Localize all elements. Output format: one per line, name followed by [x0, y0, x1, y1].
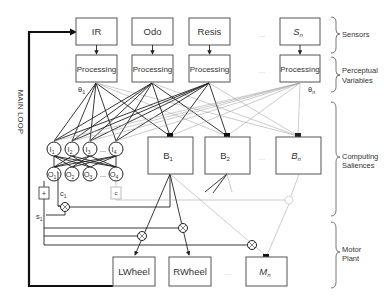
perceptual-connections: [54, 83, 301, 141]
output-node-3: O3: [83, 167, 97, 181]
svg-text:Processing: Processing: [280, 65, 320, 74]
svg-text:LWheel: LWheel: [118, 266, 150, 277]
input-node-3: I3: [83, 142, 97, 156]
svg-text:Plant: Plant: [342, 254, 360, 263]
svg-text:Resis: Resis: [198, 26, 222, 37]
theta-n-label: θn: [308, 85, 315, 95]
processing-odo: Processing: [132, 55, 173, 82]
svg-text:Processing: Processing: [190, 65, 230, 74]
svg-text:+: +: [42, 189, 47, 198]
b1-motor-lines: [135, 174, 265, 255]
brace-computing: Computing Saliences: [331, 102, 378, 216]
svg-text:Perceptual: Perceptual: [342, 66, 378, 75]
input-node-4: I4: [109, 142, 123, 156]
c1-label: c1: [60, 189, 67, 199]
processing-sn: Processing: [280, 55, 320, 82]
sensor-ellipsis: ...: [259, 30, 266, 39]
brace-perceptual: Perceptual Variables: [331, 57, 378, 92]
svg-text:Processing: Processing: [77, 65, 117, 74]
sensor-sn: Sn: [280, 18, 320, 45]
sensor-odo: Odo: [132, 18, 173, 45]
main-loop-label: MAIN LOOP: [16, 90, 25, 134]
svg-text:Variables: Variables: [342, 76, 373, 85]
behavior-bn: Bn: [276, 137, 321, 174]
svg-text:Motor: Motor: [342, 245, 362, 254]
brace-motor: Motor Plant: [331, 222, 362, 288]
s1-label: s1: [36, 212, 43, 222]
output-node-4: O4: [109, 167, 123, 181]
motor-mn: Mn: [246, 257, 287, 286]
processing-ellipsis: ...: [259, 66, 266, 75]
b2-output-lines: [205, 174, 232, 193]
svg-text:Saliences: Saliences: [342, 161, 375, 170]
output-ellipsis: ...: [100, 170, 106, 179]
motor-rwheel: RWheel: [169, 257, 211, 286]
input-ellipsis: ...: [100, 145, 106, 154]
processing-resis: Processing: [189, 55, 230, 82]
multiplier-lwheel: [138, 232, 147, 241]
distribution-lines: [44, 199, 230, 245]
architecture-diagram: MAIN LOOP IR Odo Resis ... Sn Processing…: [0, 0, 389, 303]
behavior-ellipsis: ...: [259, 153, 266, 162]
svg-text:RWheel: RWheel: [173, 266, 207, 277]
svg-text:IR: IR: [92, 26, 102, 37]
bn-motor-line: [267, 204, 289, 255]
faded-sum-box: c: [111, 181, 121, 199]
multiplier-rwheel: [179, 224, 188, 233]
s1-line: [46, 212, 65, 216]
svg-text:Processing: Processing: [133, 65, 173, 74]
svg-text:Computing: Computing: [342, 152, 378, 161]
motor-ellipsis: ...: [225, 268, 232, 277]
sensor-ir: IR: [76, 18, 117, 45]
motor-lwheel: LWheel: [113, 257, 155, 286]
processing-ir: Processing: [76, 55, 117, 82]
behavior-b1: B1: [148, 137, 193, 174]
behavior-b2: B2: [205, 137, 250, 174]
output-node-1: O1: [47, 167, 61, 181]
input-node-1: I1: [47, 142, 61, 156]
svg-text:c: c: [115, 190, 118, 196]
faded-feedback-line: [116, 174, 299, 204]
multiplier-c1: [61, 203, 70, 212]
input-node-2: I2: [65, 142, 79, 156]
multiplier-mn: [248, 241, 257, 250]
output-node-2: O2: [65, 167, 79, 181]
svg-text:Sensors: Sensors: [342, 30, 370, 39]
sum-box: +: [39, 181, 49, 199]
sensor-resis: Resis: [189, 18, 230, 45]
io-connections: [54, 156, 116, 167]
brace-sensors: Sensors: [331, 17, 370, 53]
theta-1-label: θ1: [78, 85, 85, 95]
sensor-processing-arrows: [97, 45, 301, 54]
svg-text:Odo: Odo: [144, 26, 162, 37]
